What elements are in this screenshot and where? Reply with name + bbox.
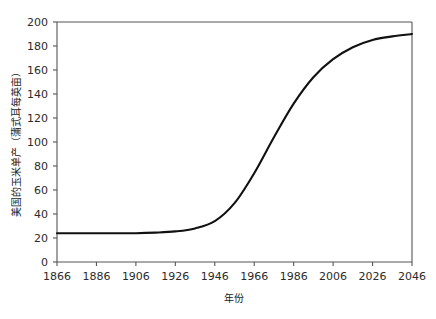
x-tick-label: 1966: [240, 270, 268, 283]
chart-canvas: 020406080100120140160180200 186618861906…: [0, 0, 436, 319]
x-tick-label: 2046: [398, 270, 426, 283]
y-tick-label: 40: [34, 208, 48, 221]
y-tick-label: 20: [34, 232, 48, 245]
y-axis-tick-labels: 020406080100120140160180200: [27, 16, 48, 269]
x-tick-label: 1906: [122, 270, 150, 283]
y-tick-label: 160: [27, 64, 48, 77]
x-tick-label: 1986: [280, 270, 308, 283]
y-tick-label: 180: [27, 40, 48, 53]
x-tick-label: 1886: [82, 270, 110, 283]
x-tick-label: 1926: [161, 270, 189, 283]
y-tick-label: 120: [27, 112, 48, 125]
x-axis-tick-marks: [57, 262, 412, 266]
y-axis-title: 美国的玉米单产（蒲式耳每英亩）: [10, 67, 22, 217]
corn-yield-chart: 020406080100120140160180200 186618861906…: [0, 0, 436, 319]
x-tick-label: 1946: [201, 270, 229, 283]
y-tick-label: 100: [27, 136, 48, 149]
x-axis-title: 年份: [224, 292, 244, 304]
x-tick-label: 2006: [319, 270, 347, 283]
x-axis-tick-labels: 1866188619061926194619661986200620262046: [43, 270, 426, 283]
y-tick-label: 80: [34, 160, 48, 173]
y-tick-label: 60: [34, 184, 48, 197]
x-tick-label: 1866: [43, 270, 71, 283]
y-tick-label: 0: [41, 256, 48, 269]
y-tick-label: 140: [27, 88, 48, 101]
y-axis-tick-marks: [53, 22, 57, 262]
y-tick-label: 200: [27, 16, 48, 29]
corn-yield-curve: [57, 34, 412, 233]
x-tick-label: 2026: [359, 270, 387, 283]
